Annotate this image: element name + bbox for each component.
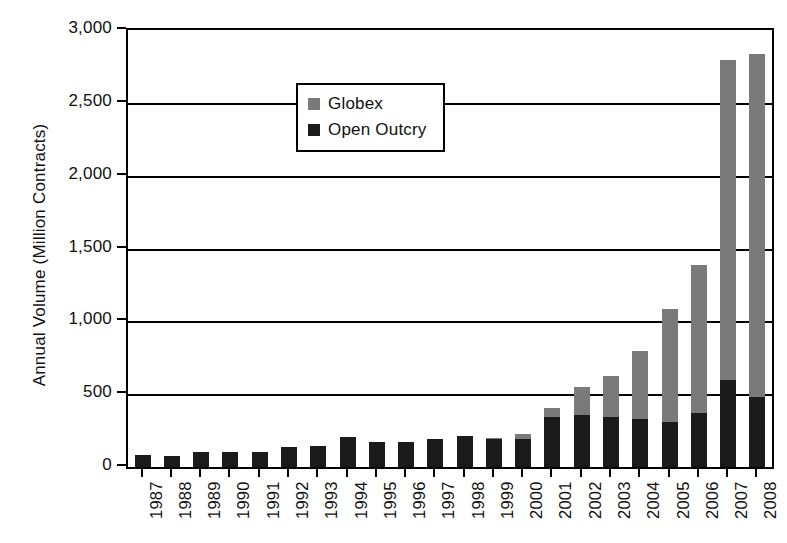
x-tick-label-2004: 2004 <box>644 481 663 519</box>
bar-2005[interactable] <box>662 309 678 467</box>
legend-swatch-icon <box>308 124 320 136</box>
bar-segment-open-outcry-2000[interactable] <box>515 439 531 467</box>
x-tick-label-1989: 1989 <box>205 481 224 519</box>
y-tick-mark-2500 <box>117 100 126 102</box>
bar-segment-open-outcry-2005[interactable] <box>662 422 678 467</box>
y-tick-label-2000: 2,000 <box>2 164 112 184</box>
x-tick-mark-2005 <box>668 467 670 477</box>
x-tick-mark-2000 <box>521 467 523 477</box>
bar-2008[interactable] <box>749 54 765 467</box>
x-tick-mark-1995 <box>375 467 377 477</box>
bar-2007[interactable] <box>720 60 736 467</box>
bar-chart: Annual Volume (Million Contracts) 05001,… <box>0 0 787 543</box>
bar-1996[interactable] <box>398 442 414 467</box>
x-tick-label-2008: 2008 <box>761 481 780 519</box>
x-tick-mark-1999 <box>492 467 494 477</box>
x-tick-mark-1988 <box>170 467 172 477</box>
bar-segment-open-outcry-1998[interactable] <box>457 436 473 467</box>
legend-item-globex[interactable]: Globex <box>308 91 427 117</box>
bar-segment-globex-2004[interactable] <box>632 351 648 419</box>
bar-1994[interactable] <box>340 437 356 467</box>
x-tick-label-1988: 1988 <box>176 481 195 519</box>
bar-2002[interactable] <box>574 387 590 467</box>
bar-1995[interactable] <box>369 442 385 467</box>
x-tick-mark-1987 <box>141 467 143 477</box>
x-tick-mark-1990 <box>228 467 230 477</box>
bar-segment-globex-2003[interactable] <box>603 376 619 417</box>
bar-1989[interactable] <box>193 452 209 467</box>
bar-segment-open-outcry-2002[interactable] <box>574 415 590 467</box>
bar-segment-open-outcry-1987[interactable] <box>135 455 151 467</box>
bar-1999[interactable] <box>486 438 502 467</box>
bar-1988[interactable] <box>164 456 180 467</box>
y-tick-mark-2000 <box>117 173 126 175</box>
y-tick-mark-500 <box>117 391 126 393</box>
bar-segment-open-outcry-2008[interactable] <box>749 397 765 467</box>
bar-1998[interactable] <box>457 436 473 467</box>
y-tick-mark-0 <box>117 464 126 466</box>
bar-segment-open-outcry-1995[interactable] <box>369 442 385 467</box>
x-tick-label-2006: 2006 <box>703 481 722 519</box>
bar-1997[interactable] <box>427 439 443 467</box>
bar-2006[interactable] <box>691 265 707 467</box>
x-tick-label-1999: 1999 <box>498 481 517 519</box>
y-tick-label-3000: 3,000 <box>2 18 112 38</box>
bar-segment-globex-2002[interactable] <box>574 387 590 415</box>
bar-segment-open-outcry-1999[interactable] <box>486 439 502 467</box>
x-tick-mark-1992 <box>287 467 289 477</box>
bar-segment-open-outcry-2007[interactable] <box>720 380 736 467</box>
bar-segment-open-outcry-1992[interactable] <box>281 447 297 467</box>
bar-segment-globex-2005[interactable] <box>662 309 678 422</box>
bar-2004[interactable] <box>632 351 648 467</box>
bar-segment-open-outcry-1991[interactable] <box>252 452 268 467</box>
y-tick-label-2500: 2,500 <box>2 91 112 111</box>
chart-legend: GlobexOpen Outcry <box>296 83 445 152</box>
x-tick-mark-1991 <box>258 467 260 477</box>
bar-2003[interactable] <box>603 376 619 467</box>
bar-segment-open-outcry-2006[interactable] <box>691 413 707 467</box>
bar-2000[interactable] <box>515 434 531 468</box>
x-tick-label-1994: 1994 <box>352 481 371 519</box>
bar-segment-open-outcry-1994[interactable] <box>340 437 356 467</box>
bar-segment-open-outcry-1990[interactable] <box>222 452 238 467</box>
x-tick-label-1991: 1991 <box>264 481 283 519</box>
x-tick-label-2000: 2000 <box>527 481 546 519</box>
x-tick-label-1990: 1990 <box>234 481 253 519</box>
bar-segment-open-outcry-1988[interactable] <box>164 456 180 467</box>
bar-segment-globex-2006[interactable] <box>691 265 707 414</box>
bar-segment-open-outcry-2001[interactable] <box>544 417 560 467</box>
gridline-2500 <box>128 103 772 105</box>
bar-segment-open-outcry-1996[interactable] <box>398 442 414 467</box>
legend-swatch-icon <box>308 98 320 110</box>
x-tick-label-1996: 1996 <box>410 481 429 519</box>
y-tick-label-0: 0 <box>2 455 112 475</box>
bar-1990[interactable] <box>222 452 238 467</box>
bar-segment-globex-2007[interactable] <box>720 60 736 380</box>
bar-segment-open-outcry-2003[interactable] <box>603 417 619 467</box>
bar-segment-globex-2001[interactable] <box>544 408 560 417</box>
bar-segment-globex-2008[interactable] <box>749 54 765 397</box>
x-tick-label-2002: 2002 <box>586 481 605 519</box>
legend-item-open-outcry[interactable]: Open Outcry <box>308 117 427 143</box>
bar-2001[interactable] <box>544 408 560 467</box>
bar-segment-open-outcry-1993[interactable] <box>310 446 326 467</box>
bar-1993[interactable] <box>310 446 326 467</box>
x-tick-label-2003: 2003 <box>615 481 634 519</box>
x-tick-label-1997: 1997 <box>439 481 458 519</box>
bar-1991[interactable] <box>252 452 268 467</box>
x-tick-label-1998: 1998 <box>469 481 488 519</box>
x-tick-mark-2008 <box>755 467 757 477</box>
bar-segment-open-outcry-1997[interactable] <box>427 439 443 467</box>
bar-segment-open-outcry-2004[interactable] <box>632 419 648 467</box>
bar-segment-open-outcry-1989[interactable] <box>193 452 209 467</box>
x-tick-mark-2003 <box>609 467 611 477</box>
plot-area: GlobexOpen Outcry <box>126 28 774 469</box>
x-tick-label-1987: 1987 <box>147 481 166 519</box>
x-tick-label-1995: 1995 <box>381 481 400 519</box>
x-tick-label-2001: 2001 <box>556 481 575 519</box>
bar-1992[interactable] <box>281 447 297 467</box>
x-tick-mark-1993 <box>316 467 318 477</box>
bar-1987[interactable] <box>135 455 151 467</box>
y-tick-label-1000: 1,000 <box>2 309 112 329</box>
y-tick-mark-1500 <box>117 246 126 248</box>
